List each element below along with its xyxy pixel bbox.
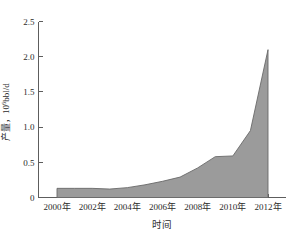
y-tick-label: 1.5 <box>23 87 35 97</box>
y-tick-label: 2.5 <box>23 17 35 27</box>
x-tick-label: 2012年 <box>255 201 282 212</box>
x-tick-label: 2008年 <box>184 201 211 212</box>
y-tick-label: 2.0 <box>23 52 35 62</box>
x-tick-label: 2006年 <box>149 201 176 212</box>
y-axis-tick-labels: 00.51.01.52.02.5 <box>23 17 35 203</box>
x-axis-title-text: 时间 <box>152 219 172 230</box>
y-axis-title-unit-tail: bbl/d <box>1 83 11 102</box>
y-axis-title-text: 产量，106bbl/d <box>0 83 11 141</box>
x-tick-label: 2000年 <box>44 201 71 212</box>
x-tick-label: 2010年 <box>219 201 246 212</box>
y-axis-title-cn: 产量 <box>0 123 11 141</box>
y-tick-label: 1.0 <box>23 122 35 132</box>
chart-canvas: 00.51.01.52.02.5 2000年2002年2004年2006年200… <box>0 0 291 235</box>
area-series-path <box>57 50 268 198</box>
x-tick-label: 2002年 <box>79 201 106 212</box>
y-axis-ticks <box>39 22 43 163</box>
y-axis-title: 产量，106bbl/d <box>0 83 11 141</box>
y-tick-label: 0.5 <box>23 158 35 168</box>
y-axis-title-sep: ， <box>1 114 11 123</box>
x-tick-label: 2004年 <box>114 201 141 212</box>
area-chart-figure: 00.51.01.52.02.5 2000年2002年2004年2006年200… <box>0 0 291 235</box>
y-tick-label: 0 <box>30 193 35 203</box>
data-series-group <box>57 50 268 198</box>
chart-screenshot: ⸺⸺ ⸺⸺⸺ ⸺⸺ 00.51.01.52.02.5 2000年2002年200… <box>0 0 291 235</box>
x-axis-tick-labels: 2000年2002年2004年2006年2008年2010年2012年 <box>44 201 282 212</box>
